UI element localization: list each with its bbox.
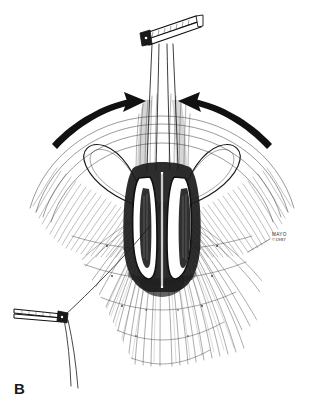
credit-copyright: ©1987	[272, 238, 287, 243]
central-tissue-structure	[123, 162, 200, 292]
tissue-core-left	[140, 188, 152, 268]
panel-label: B	[14, 381, 25, 396]
figure-panel: MAYO ©1987 B	[0, 0, 324, 411]
surgical-illustration	[0, 0, 324, 411]
lower-left-forceps-pivot	[61, 316, 63, 318]
mayo-credit: MAYO ©1987	[272, 233, 287, 242]
tissue-core-right	[179, 188, 191, 268]
upper-forceps-pivot	[145, 37, 148, 40]
